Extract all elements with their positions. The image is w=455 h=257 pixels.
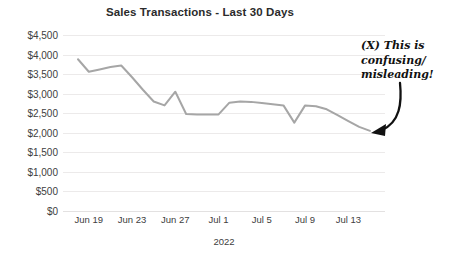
annotation-arrow-icon [382,83,401,130]
annotation-note: (X) This is confusing/ misleading! [361,39,455,83]
sales-series-line [78,59,370,131]
annotation-arrowhead-icon [371,124,386,136]
sales-transactions-line-chart: Sales Transactions - Last 30 Days $4,500… [0,0,455,257]
